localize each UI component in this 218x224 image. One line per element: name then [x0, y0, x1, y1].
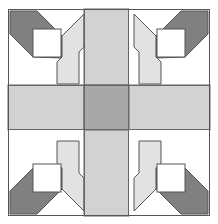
white-square-top-right [157, 29, 185, 57]
quilt-canvas [0, 0, 218, 224]
white-square-top-left [33, 29, 61, 57]
white-square-bottom-left [33, 164, 61, 192]
cell-corner-bottom-left [8, 130, 84, 216]
cell-corner-top-right [129, 9, 210, 85]
cell-corner-top-left [8, 9, 84, 85]
cell-arm-left [8, 85, 84, 130]
quilt-block-figure: Nine-patch quilt block: white corners wi… [0, 0, 218, 224]
cell-arm-top [84, 9, 129, 85]
cell-center-square [84, 85, 129, 130]
cell-arm-right [129, 85, 210, 130]
cell-corner-bottom-right [129, 130, 210, 216]
white-square-bottom-right [157, 164, 185, 192]
cell-arm-bottom [84, 130, 129, 216]
